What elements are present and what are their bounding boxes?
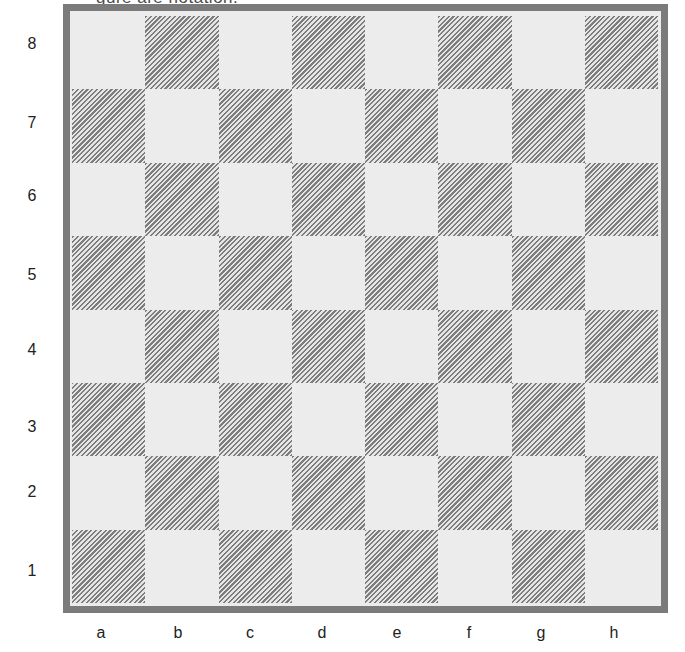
square-h2[interactable] [585,456,658,529]
square-c2[interactable] [219,456,292,529]
square-g5[interactable] [512,236,585,309]
square-h8[interactable] [585,16,658,89]
square-d5[interactable] [292,236,365,309]
square-e6[interactable] [365,163,438,236]
square-d4[interactable] [292,310,365,383]
square-a6[interactable] [72,163,145,236]
square-b2[interactable] [145,456,218,529]
square-f7[interactable] [438,89,511,162]
chessboard [63,4,668,613]
square-g6[interactable] [512,163,585,236]
square-d3[interactable] [292,383,365,456]
square-a5[interactable] [72,236,145,309]
rank-label-2: 2 [22,483,42,501]
square-h5[interactable] [585,236,658,309]
square-e1[interactable] [365,530,438,603]
square-d1[interactable] [292,530,365,603]
square-e2[interactable] [365,456,438,529]
square-h6[interactable] [585,163,658,236]
file-label-a: a [91,624,111,642]
file-label-d: d [312,624,332,642]
square-a4[interactable] [72,310,145,383]
square-g7[interactable] [512,89,585,162]
board-grid [72,16,658,603]
square-h3[interactable] [585,383,658,456]
square-a8[interactable] [72,16,145,89]
square-a2[interactable] [72,456,145,529]
square-c4[interactable] [219,310,292,383]
square-c8[interactable] [219,16,292,89]
square-g4[interactable] [512,310,585,383]
square-c6[interactable] [219,163,292,236]
square-h4[interactable] [585,310,658,383]
square-f1[interactable] [438,530,511,603]
square-c1[interactable] [219,530,292,603]
square-e4[interactable] [365,310,438,383]
square-b8[interactable] [145,16,218,89]
rank-label-3: 3 [22,418,42,436]
file-label-b: b [168,624,188,642]
square-f8[interactable] [438,16,511,89]
square-a3[interactable] [72,383,145,456]
square-f3[interactable] [438,383,511,456]
square-f4[interactable] [438,310,511,383]
square-f5[interactable] [438,236,511,309]
rank-label-4: 4 [22,341,42,359]
rank-label-5: 5 [22,266,42,284]
square-d2[interactable] [292,456,365,529]
square-c3[interactable] [219,383,292,456]
file-label-e: e [387,624,407,642]
square-b6[interactable] [145,163,218,236]
square-d6[interactable] [292,163,365,236]
square-b5[interactable] [145,236,218,309]
square-h1[interactable] [585,530,658,603]
square-f6[interactable] [438,163,511,236]
square-e3[interactable] [365,383,438,456]
square-c5[interactable] [219,236,292,309]
square-g2[interactable] [512,456,585,529]
square-g1[interactable] [512,530,585,603]
file-label-h: h [604,624,624,642]
rank-label-6: 6 [22,187,42,205]
rank-label-8: 8 [22,35,42,53]
file-label-f: f [459,624,479,642]
square-g8[interactable] [512,16,585,89]
square-b1[interactable] [145,530,218,603]
square-b4[interactable] [145,310,218,383]
rank-label-7: 7 [22,114,42,132]
square-b3[interactable] [145,383,218,456]
square-e8[interactable] [365,16,438,89]
square-d8[interactable] [292,16,365,89]
square-g3[interactable] [512,383,585,456]
square-e7[interactable] [365,89,438,162]
square-a7[interactable] [72,89,145,162]
file-label-c: c [240,624,260,642]
square-h7[interactable] [585,89,658,162]
square-c7[interactable] [219,89,292,162]
square-f2[interactable] [438,456,511,529]
square-b7[interactable] [145,89,218,162]
file-label-g: g [531,624,551,642]
rank-label-1: 1 [22,562,42,580]
square-d7[interactable] [292,89,365,162]
square-a1[interactable] [72,530,145,603]
square-e5[interactable] [365,236,438,309]
